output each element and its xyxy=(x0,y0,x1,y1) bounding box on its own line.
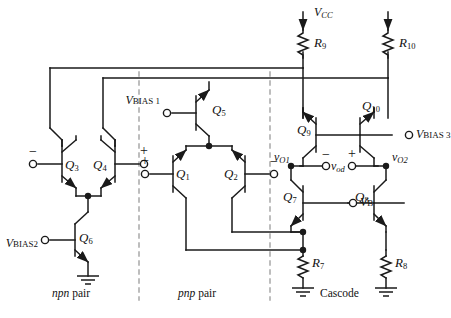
terminal-in-minus-npn xyxy=(29,160,36,167)
transistor-q5 xyxy=(172,82,209,146)
label-q5: Q5 xyxy=(212,103,226,118)
label-vo2: vO2 xyxy=(392,151,408,165)
label-q2: Q2 xyxy=(224,167,238,182)
terminal-vbias3 xyxy=(405,131,412,138)
label-vbias3: VBIAS 3 xyxy=(416,128,451,140)
sign-npn-minus: − xyxy=(29,145,37,159)
label-vbias2: VBIAS2 xyxy=(6,237,38,249)
label-r9: R9 xyxy=(314,36,326,51)
label-vod: vod xyxy=(331,160,345,174)
ground-q6 xyxy=(77,276,99,284)
sign-pnp-plus: + xyxy=(141,154,149,168)
rail-q4-collector xyxy=(103,78,388,146)
sign-pnp-minus: − xyxy=(270,155,278,169)
resistor-r8-body xyxy=(381,250,391,288)
terminal-in-plus-pnp xyxy=(141,170,148,177)
junction-pnp-tail xyxy=(206,143,212,149)
terminal-vbias1 xyxy=(163,109,170,116)
label-q1: Q1 xyxy=(176,167,190,182)
label-q9: Q9 xyxy=(297,123,311,138)
caption-cascode: Cascode xyxy=(320,288,359,300)
label-q3: Q3 xyxy=(65,158,79,173)
terminal-vod-minus xyxy=(322,162,329,169)
sign-vod-plus: + xyxy=(348,147,356,161)
caption-npn-pair: npn pair xyxy=(52,288,90,300)
terminal-vbias2 xyxy=(41,236,48,243)
terminal-vod-plus xyxy=(348,162,355,169)
rail-q3-collector xyxy=(50,68,303,146)
ground-r7 xyxy=(292,288,314,296)
label-r10: R10 xyxy=(399,36,415,51)
label-vbias1: VBIAS 1 xyxy=(125,94,160,106)
caption-pnp-pair: pnp pair xyxy=(178,288,216,300)
transistor-q8 xyxy=(374,180,404,232)
transistor-q7 xyxy=(291,180,348,232)
supply-branch-r9 xyxy=(298,12,308,68)
terminal-in-minus-pnp xyxy=(270,170,277,177)
label-q10: Q10 xyxy=(362,99,380,114)
label-vb: VB xyxy=(360,196,373,208)
ground-r8 xyxy=(375,288,397,296)
transistor-q10 xyxy=(360,108,392,166)
label-q6: Q6 xyxy=(79,231,93,246)
label-q7: Q7 xyxy=(283,190,297,205)
label-r8: R8 xyxy=(395,256,407,271)
sign-vod-minus: − xyxy=(322,148,330,162)
resistor-r7-body xyxy=(298,250,308,288)
label-r7: R7 xyxy=(312,256,324,271)
label-q4: Q4 xyxy=(93,158,107,173)
supply-branch-r10 xyxy=(383,12,393,78)
label-vcc: VCC xyxy=(314,6,333,20)
